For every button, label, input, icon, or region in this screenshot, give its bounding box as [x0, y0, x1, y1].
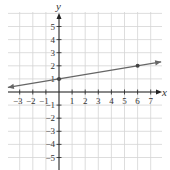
svg-text:1: 1: [51, 74, 56, 84]
svg-text:2: 2: [83, 96, 88, 106]
svg-text:4: 4: [51, 35, 56, 45]
svg-text:−2: −2: [26, 96, 36, 106]
svg-text:3: 3: [51, 48, 56, 58]
svg-text:7: 7: [148, 96, 153, 106]
svg-text:−4: −4: [45, 139, 55, 149]
svg-text:2: 2: [51, 61, 56, 71]
y-axis-label: y: [55, 0, 61, 12]
svg-text:5: 5: [51, 22, 56, 32]
svg-text:−1: −1: [45, 100, 55, 110]
svg-text:3: 3: [96, 96, 101, 106]
svg-text:4: 4: [109, 96, 114, 106]
svg-text:5: 5: [122, 96, 127, 106]
svg-text:−2: −2: [45, 113, 55, 123]
x-axis-label: x: [161, 86, 167, 98]
svg-text:1: 1: [70, 96, 75, 106]
svg-text:−5: −5: [45, 153, 55, 163]
svg-text:−3: −3: [13, 96, 23, 106]
data-line: [8, 60, 161, 89]
svg-text:6: 6: [135, 96, 140, 106]
svg-text:−3: −3: [45, 126, 55, 136]
coordinate-plane: −3−2−11234567−5−4−3−2−112345 x y: [0, 0, 170, 170]
